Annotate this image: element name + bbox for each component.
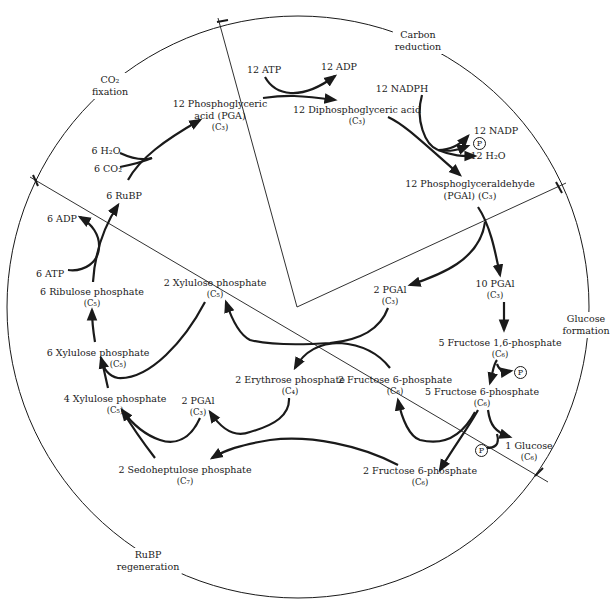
phase-label-co2-fixation: CO₂ fixation (90, 73, 130, 99)
compound-6-xylulose-phosphate: 6 Xylulose phosphate (C₅) (47, 347, 150, 370)
compound-2-pgal-top: 2 PGAl (C₃) (374, 284, 407, 307)
compound-glucose: 1 Glucose (C₆) (505, 440, 552, 463)
cofactor-6-adp: 6 ADP (47, 213, 77, 225)
compound-2-pgal-left: 2 PGAl (C₃) (182, 395, 215, 418)
cofactor-12-adp: 12 ADP (321, 61, 357, 73)
cofactor-12-nadph: 12 NADPH (376, 83, 429, 95)
compound-fructose-16-phosphate: 5 Fructose 1,6-phosphate (C₆) (438, 337, 561, 360)
cofactor-12-atp: 12 ATP (247, 64, 281, 76)
phosphate-icon: P (475, 444, 488, 457)
cofactor-6-co2: 6 CO₂ (94, 163, 122, 175)
compound-2-fructose-6-phosphate-bottom: 2 Fructose 6-phosphate (C₆) (363, 465, 477, 488)
compound-erythrose-phosphate: 2 Erythrose phosphate (C₄) (235, 374, 345, 397)
compound-rubp: 6 RuBP (106, 190, 142, 202)
cofactor-12-h2o: 12 H₂O (471, 150, 506, 162)
phosphate-icon: P (514, 366, 527, 379)
compound-diphosphoglyceric-acid: 12 Diphosphoglyceric acid (C₃) (293, 104, 421, 127)
cofactor-12-nadp: 12 NADP (474, 125, 518, 137)
cofactor-6-h2o: 6 H₂O (92, 145, 121, 157)
compound-4-xylulose-phosphate: 4 Xylulose phosphate (C₅) (64, 393, 167, 416)
cofactor-6-atp: 6 ATP (36, 268, 64, 280)
compound-sedoheptulose-phosphate: 2 Sedoheptulose phosphate (C₇) (118, 464, 251, 487)
phosphate-icon: P (473, 137, 486, 150)
compound-pga: 12 Phosphoglyceric acid (PGA) (C₃) (173, 98, 267, 133)
compound-ribulose-phosphate: 6 Ribulose phosphate (C₅) (40, 286, 144, 309)
compound-2-xylulose-phosphate: 2 Xylulose phosphate (C₅) (164, 277, 267, 300)
calvin-cycle-diagram: CO₂ fixation Carbon reduction Glucose fo… (0, 0, 616, 606)
phase-label-carbon-reduction: Carbon reduction (393, 28, 443, 54)
compound-10-pgal: 10 PGAl (C₃) (476, 278, 515, 301)
phase-label-rubp-regeneration: RuBP regeneration (115, 548, 182, 574)
compound-12-pgal: 12 Phosphoglyceraldehyde (PGAl) (C₃) (405, 178, 535, 202)
phase-label-glucose-formation: Glucose formation (560, 312, 611, 338)
compound-2-fructose-6-phosphate-mid: 2 Fructose 6-phosphate (C₆) (338, 374, 452, 397)
